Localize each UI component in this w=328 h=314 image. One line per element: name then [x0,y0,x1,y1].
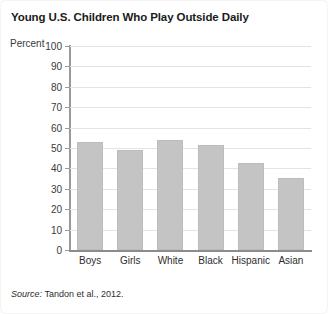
y-tick-mark [65,168,69,169]
y-axis-tick-labels: 1009080706050403020100 [32,0,62,314]
gridline [70,168,311,169]
bar-asian [278,178,304,250]
x-tick-label-black: Black [198,255,222,266]
bar-white [157,140,183,250]
gridline [70,46,311,47]
x-tick-label-white: White [158,255,184,266]
bar-boys [77,142,103,250]
y-tick-mark [65,250,69,251]
y-tick-label: 50 [32,143,62,154]
y-tick-mark [65,107,69,108]
source-label: Source: [11,289,42,299]
plot-area [70,46,311,250]
chart-figure: Young U.S. Children Who Play Outside Dai… [0,0,328,314]
y-tick-mark [65,230,69,231]
y-tick-label: 80 [32,81,62,92]
gridline [70,148,311,149]
y-tick-label: 30 [32,183,62,194]
y-tick-label: 100 [32,41,62,52]
y-tick-mark [65,148,69,149]
x-axis-line [69,250,312,252]
y-tick-mark [65,66,69,67]
y-tick-label: 70 [32,102,62,113]
x-tick-label-girls: Girls [120,255,141,266]
y-tick-mark [65,209,69,210]
gridline [70,66,311,67]
bar-hispanic [238,163,264,250]
y-tick-label: 20 [32,204,62,215]
y-tick-mark [65,87,69,88]
gridline [70,87,311,88]
y-tick-label: 0 [32,245,62,256]
x-tick-label-boys: Boys [79,255,101,266]
x-tick-label-asian: Asian [278,255,303,266]
bar-black [198,145,224,250]
x-tick-label-hispanic: Hispanic [232,255,270,266]
y-tick-mark [65,189,69,190]
y-tick-label: 90 [32,61,62,72]
gridline [70,189,311,190]
y-tick-label: 10 [32,224,62,235]
y-tick-label: 60 [32,122,62,133]
gridline [70,230,311,231]
bar-girls [117,150,143,250]
y-tick-label: 40 [32,163,62,174]
source-text: Tandon et al., 2012. [45,289,124,299]
gridline [70,128,311,129]
y-tick-mark [65,128,69,129]
source-note: Source: Tandon et al., 2012. [11,289,124,299]
gridline [70,209,311,210]
y-tick-mark [65,46,69,47]
gridline [70,107,311,108]
